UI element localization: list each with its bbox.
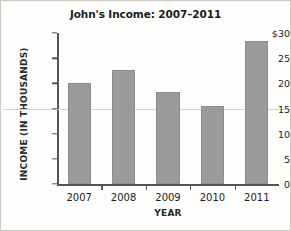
y-tick-mark xyxy=(52,108,57,109)
income-bar-chart: John's Income: 2007–2011 INCOME (IN THOU… xyxy=(0,0,291,231)
bar-2008 xyxy=(112,70,135,184)
chart-title: John's Income: 2007–2011 xyxy=(1,8,290,20)
x-tick-mark xyxy=(146,185,147,190)
y-tick-mark xyxy=(52,133,57,134)
bar-2010 xyxy=(201,106,224,184)
x-tick-mark xyxy=(235,185,236,190)
bar-2011 xyxy=(245,41,268,184)
y-tick-label: $30 xyxy=(244,28,290,39)
y-tick-mark xyxy=(52,57,57,58)
bar-2007 xyxy=(68,83,91,184)
x-tick-mark xyxy=(101,185,102,190)
x-tick-mark xyxy=(190,185,191,190)
y-tick-mark xyxy=(52,158,57,159)
y-axis-label: INCOME (IN THOUSANDS) xyxy=(19,39,29,189)
bar-2009 xyxy=(156,92,179,184)
x-axis-label: YEAR xyxy=(57,208,279,218)
x-tick-label: 2011 xyxy=(231,192,283,203)
y-tick-mark xyxy=(52,183,57,184)
y-tick-mark xyxy=(52,32,57,33)
y-tick-mark xyxy=(52,83,57,84)
